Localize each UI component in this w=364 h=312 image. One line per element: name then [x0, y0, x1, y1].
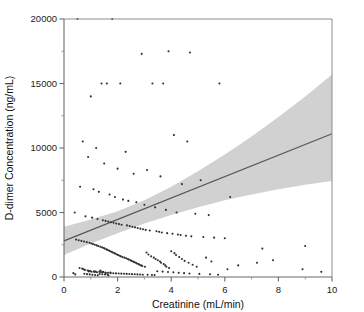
- data-point: [155, 258, 157, 260]
- data-point: [75, 239, 77, 241]
- data-point: [136, 273, 138, 275]
- data-point: [131, 226, 133, 228]
- data-point: [78, 239, 80, 241]
- data-point: [79, 186, 81, 188]
- x-axis-title: Creatinine (mL/min): [152, 298, 244, 310]
- confidence-band: [64, 74, 332, 255]
- data-point: [173, 134, 175, 136]
- data-point: [106, 82, 108, 84]
- data-point: [139, 228, 141, 230]
- data-point: [208, 214, 210, 216]
- data-point: [320, 271, 322, 273]
- data-point: [196, 266, 198, 268]
- data-point: [88, 270, 90, 272]
- data-point: [104, 274, 106, 276]
- data-point: [142, 274, 144, 276]
- data-point: [183, 272, 185, 274]
- data-point: [83, 273, 85, 275]
- data-point: [188, 262, 190, 264]
- data-point: [181, 258, 183, 260]
- data-point: [178, 272, 180, 274]
- data-point: [147, 274, 149, 276]
- data-point: [213, 237, 215, 239]
- data-point: [139, 274, 141, 276]
- data-point: [151, 274, 153, 276]
- regression-line: [64, 134, 332, 241]
- data-point: [99, 270, 101, 272]
- data-point: [177, 233, 179, 235]
- data-point: [83, 240, 85, 242]
- data-point: [84, 215, 86, 217]
- y-axis-title: D-dimer Concentration (ng/mL): [3, 76, 15, 221]
- data-point: [261, 248, 263, 250]
- data-point: [128, 273, 130, 275]
- data-point: [118, 272, 120, 274]
- data-point: [107, 220, 109, 222]
- data-point: [165, 266, 167, 268]
- data-point: [121, 256, 123, 258]
- data-point: [88, 242, 90, 244]
- data-point: [122, 199, 124, 201]
- data-point: [100, 82, 102, 84]
- fit-line-group: [64, 134, 332, 241]
- data-point: [167, 50, 169, 52]
- data-point: [150, 255, 152, 257]
- data-point: [144, 266, 146, 268]
- data-point: [86, 241, 88, 243]
- data-point: [97, 245, 99, 247]
- data-point: [92, 243, 94, 245]
- data-point: [202, 236, 204, 238]
- data-point: [131, 273, 133, 275]
- data-point: [118, 223, 120, 225]
- data-point: [99, 273, 101, 275]
- data-point: [168, 267, 170, 269]
- chart-figure: 024681005000100001500020000 Creatinine (…: [0, 0, 364, 312]
- data-point: [161, 231, 163, 233]
- data-point: [175, 254, 177, 256]
- data-point: [160, 262, 162, 264]
- data-point: [173, 252, 175, 254]
- data-point: [210, 260, 212, 262]
- x-tick-label: 8: [276, 284, 281, 295]
- data-point: [127, 200, 129, 202]
- data-point: [165, 209, 167, 211]
- data-point: [184, 260, 186, 262]
- data-point: [176, 211, 178, 213]
- data-point: [181, 183, 183, 185]
- data-point: [186, 141, 188, 143]
- data-point: [92, 188, 94, 190]
- data-point: [158, 231, 160, 233]
- data-point: [107, 274, 109, 276]
- data-point: [146, 169, 148, 171]
- x-tick-label: 0: [61, 284, 66, 295]
- data-point: [272, 259, 274, 261]
- data-point: [134, 273, 136, 275]
- data-point: [95, 147, 97, 149]
- x-tick-label: 6: [222, 284, 227, 295]
- data-point: [237, 264, 239, 266]
- data-point: [91, 217, 93, 219]
- data-point: [134, 226, 136, 228]
- data-point: [86, 273, 88, 275]
- data-point: [97, 274, 99, 276]
- data-point: [224, 237, 226, 239]
- data-point: [256, 262, 258, 264]
- data-point: [80, 240, 82, 242]
- data-point: [123, 273, 125, 275]
- data-point: [226, 268, 228, 270]
- data-point: [90, 95, 92, 97]
- data-point: [304, 245, 306, 247]
- data-point: [155, 230, 157, 232]
- ci-band-group: [64, 74, 332, 255]
- data-point: [143, 204, 145, 206]
- data-point: [78, 267, 80, 269]
- data-point: [91, 271, 93, 273]
- data-point: [154, 274, 156, 276]
- data-point: [94, 244, 96, 246]
- data-point: [72, 272, 74, 274]
- data-point: [135, 201, 137, 203]
- y-tick-label: 5000: [36, 207, 57, 218]
- x-tick-label: 10: [327, 284, 338, 295]
- data-point: [112, 272, 114, 274]
- x-tick-label: 4: [169, 284, 174, 295]
